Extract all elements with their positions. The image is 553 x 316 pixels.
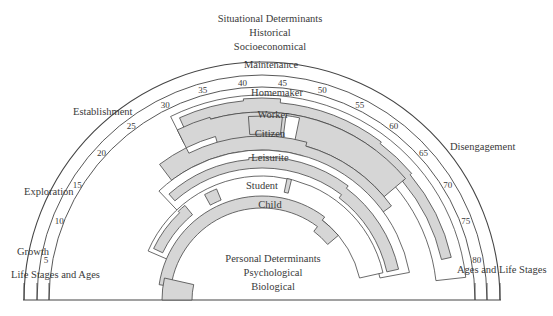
age-tick-label: 40 xyxy=(238,77,247,89)
age-tick-label: 15 xyxy=(73,179,82,191)
age-tick-label: 20 xyxy=(97,147,106,159)
socioeconomical-label: Socioeconomical xyxy=(234,41,306,53)
age-tick-label: 55 xyxy=(355,99,364,111)
stage-exploration: Exploration xyxy=(24,186,74,198)
role-leisurite: Leisurite xyxy=(251,152,288,164)
role-student: Student xyxy=(246,180,278,192)
role-homemaker: Homemaker xyxy=(251,87,303,99)
age-tick-label: 25 xyxy=(127,120,136,132)
stage-disengagement: Disengagement xyxy=(450,141,515,153)
personal-determinants-label: Personal Determinants xyxy=(225,253,320,265)
age-tick-label: 70 xyxy=(443,179,452,191)
age-tick-label: 45 xyxy=(278,77,287,89)
age-tick-label: 30 xyxy=(161,99,170,111)
historical-label: Historical xyxy=(249,27,290,39)
role-worker: Worker xyxy=(257,109,288,121)
age-tick-label: 35 xyxy=(198,84,207,96)
psychological-label: Psychological xyxy=(244,267,303,279)
axis-label-left: Life Stages and Ages xyxy=(11,269,100,281)
age-tick-label: 80 xyxy=(472,254,481,266)
stage-maintenance: Maintenance xyxy=(244,59,298,71)
age-tick-label: 10 xyxy=(55,215,64,227)
child-base xyxy=(162,278,194,300)
role-child: Child xyxy=(258,199,281,211)
age-tick-label: 65 xyxy=(419,147,428,159)
biological-label: Biological xyxy=(251,281,295,293)
stage-establishment: Establishment xyxy=(73,106,133,118)
age-tick-label: 5 xyxy=(44,254,49,266)
age-tick-label: 75 xyxy=(461,215,470,227)
age-tick-label: 60 xyxy=(389,120,398,132)
role-citizen: Citizen xyxy=(255,128,285,140)
age-tick-label: 50 xyxy=(318,84,327,96)
situational-determinants-label: Situational Determinants xyxy=(218,13,323,25)
axis-label-right: Ages and Life Stages xyxy=(457,264,547,276)
